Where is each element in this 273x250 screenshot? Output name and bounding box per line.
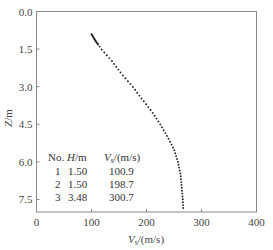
legend-h: 1.50 (68, 178, 88, 190)
legend-h: 1.50 (68, 165, 88, 177)
legend-row: 11.50100.9 (55, 165, 134, 177)
legend-header-h: H/m (66, 151, 87, 163)
x-tick-label: 200 (138, 216, 155, 228)
y-tick-label: 6.0 (19, 156, 33, 168)
legend-no: 1 (55, 165, 61, 177)
legend-row: 33.48300.7 (55, 191, 134, 203)
x-axis-label: Vs/(m/s) (128, 233, 164, 247)
y-tick-label: 0.0 (19, 6, 33, 18)
y-axis-label: Z/m (2, 109, 14, 127)
x-tick-label: 100 (83, 216, 100, 228)
x-tick-label: 400 (248, 216, 265, 228)
legend-no: 2 (55, 178, 61, 190)
legend-no: 3 (55, 191, 61, 203)
legend-h: 3.48 (68, 191, 88, 203)
y-tick-label: 3.0 (19, 81, 33, 93)
legend-v: 100.9 (109, 165, 134, 177)
x-tick-label: 0 (34, 216, 40, 228)
chart: 0100200300400 0.01.53.04.56.07.5 Z/m Vs/… (0, 0, 273, 250)
legend-table: No. H/m Vs/(m/s) 11.50100.921.50198.733.… (48, 151, 140, 203)
x-tick-label: 300 (193, 216, 210, 228)
legend-v: 300.7 (109, 191, 134, 203)
y-tick-label: 1.5 (19, 43, 33, 55)
legend-header-v: Vs/(m/s) (104, 151, 140, 165)
legend-row: 21.50198.7 (55, 178, 134, 190)
data-points (91, 33, 185, 209)
y-tick-label: 4.5 (19, 118, 33, 130)
y-tick-label: 7.5 (19, 193, 33, 205)
legend-header-no: No. (48, 151, 64, 163)
legend-v: 198.7 (109, 178, 134, 190)
